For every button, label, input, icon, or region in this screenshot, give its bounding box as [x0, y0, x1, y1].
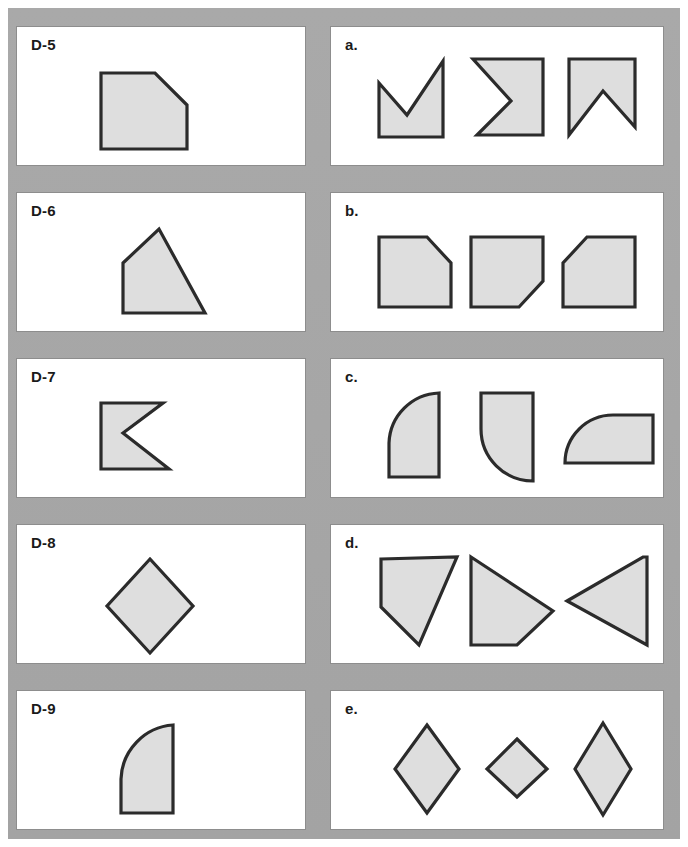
figure-row-a — [331, 27, 663, 165]
panel-b[interactable]: b. — [330, 192, 664, 332]
shape-arrow-notch-top — [379, 61, 443, 137]
shape-quadrilateral-house — [123, 229, 205, 313]
shape-quadrilateral-rotated-c — [567, 557, 647, 645]
shape-quadrilateral-rotated-b — [471, 557, 553, 645]
panel-d6[interactable]: D-6 — [16, 192, 306, 332]
figure-row-e — [331, 691, 663, 829]
shape-diamond-tall — [107, 559, 193, 653]
panel-d7[interactable]: D-7 — [16, 358, 306, 498]
shape-square-chamfer-top-left — [563, 237, 635, 307]
figure-d9 — [17, 691, 305, 829]
shape-rounded-top-left-tall — [389, 393, 439, 477]
worksheet-page: D-5 D-6 D-7 D-8 — [0, 0, 688, 847]
panel-a[interactable]: a. — [330, 26, 664, 166]
shape-arrow-notched-right — [101, 403, 169, 469]
figure-d8 — [17, 525, 305, 663]
panel-d8[interactable]: D-8 — [16, 524, 306, 664]
panel-e[interactable]: e. — [330, 690, 664, 830]
figure-d7 — [17, 359, 305, 497]
shape-arrow-notch-left — [473, 59, 543, 135]
figure-row-d — [331, 525, 663, 663]
panel-d9[interactable]: D-9 — [16, 690, 306, 830]
shape-arrow-notch-bottom — [569, 59, 635, 135]
shape-rounded-top-left-wide — [565, 415, 653, 463]
shape-square-chamfer-top-right — [379, 237, 451, 307]
panel-c[interactable]: c. — [330, 358, 664, 498]
shape-square-chamfered-top-right — [101, 73, 187, 149]
shape-square-chamfer-bottom-right — [471, 237, 543, 307]
shape-diamond-wide-small — [487, 739, 547, 797]
figure-d6 — [17, 193, 305, 331]
figure-d5 — [17, 27, 305, 165]
panel-d5[interactable]: D-5 — [16, 26, 306, 166]
shape-rounded-bottom-left-concave — [481, 393, 533, 481]
shape-quadrilateral-rotated-a — [381, 557, 457, 645]
shape-diamond-tall-narrow — [575, 723, 631, 815]
figure-row-b — [331, 193, 663, 331]
panel-d[interactable]: d. — [330, 524, 664, 664]
figure-row-c — [331, 359, 663, 497]
shape-diamond-large — [395, 725, 459, 813]
shape-rounded-top-left-rectangle — [121, 725, 173, 813]
